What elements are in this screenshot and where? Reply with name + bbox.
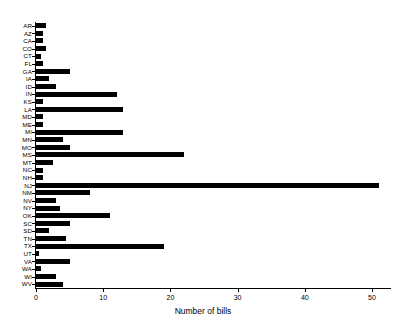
y-axis-tick-label: MT [0,159,32,166]
y-axis-tick-label: NC [0,166,32,173]
bar-row [36,37,372,45]
bar [36,160,53,165]
y-axis-tick-label: UT [0,250,32,257]
y-axis-tick-label: LA [0,106,32,113]
y-axis-tick-label: NV [0,197,32,204]
bar-row [36,68,372,76]
y-axis-tick-label: CO [0,45,32,52]
bar-row [36,106,372,114]
y-axis-category-labels: ARAZCACOCTFLGAIAIDINKSLAMDMEMIMNMOMSMTNC… [0,22,32,288]
bar [36,221,70,226]
bar [36,92,117,97]
bar [36,69,70,74]
bar-row [36,174,372,182]
bar-row [36,212,372,220]
bar-row [36,45,372,53]
y-axis-tick-label: GA [0,68,32,75]
y-axis-tick-label: TX [0,242,32,249]
bar [36,183,379,188]
x-axis-line [36,288,391,289]
bar [36,175,43,180]
y-axis-tick-label: TN [0,235,32,242]
x-axis-tick-label: 40 [293,293,317,302]
bar-row [36,144,372,152]
bar-row [36,90,372,98]
y-axis-tick-label: WI [0,273,32,280]
y-axis-tick-label: MO [0,144,32,151]
bar [36,122,43,127]
bar [36,145,70,150]
bar [36,228,49,233]
bar-row [36,128,372,136]
x-axis-tick-mark [305,288,306,292]
bar [36,266,41,271]
x-axis-tick-label: 50 [360,293,384,302]
bar [36,114,43,119]
x-axis-tick-mark [372,288,373,292]
x-axis-tick-label: 10 [91,293,115,302]
bar-row [36,22,372,30]
y-axis-tick-label: NH [0,174,32,181]
y-axis-tick-label: MI [0,128,32,135]
x-axis-title-label: Number of bills [175,306,232,316]
y-axis-tick-label: CA [0,37,32,44]
bar [36,274,56,279]
bar [36,251,39,256]
bar [36,244,164,249]
bar [36,46,46,51]
bar-row [36,30,372,38]
y-axis-tick-label: FL [0,60,32,67]
bar [36,259,70,264]
bar-row [36,258,372,266]
y-axis-tick-label: KS [0,98,32,105]
bar [36,206,60,211]
y-axis-tick-label: CT [0,52,32,59]
bar-row [36,151,372,159]
bar-row [36,113,372,121]
bar-row [36,273,372,281]
bar-row [36,60,372,68]
bar-row [36,98,372,106]
y-axis-tick-label: MD [0,113,32,120]
bar [36,84,56,89]
y-axis-tick-label: VA [0,258,32,265]
bar-row [36,227,372,235]
x-axis-tick-mark [170,288,171,292]
bar [36,54,41,59]
bar-row [36,75,372,83]
y-axis-tick-label: NJ [0,182,32,189]
bar [36,137,63,142]
x-axis-tick-mark [36,288,37,292]
plot-area [36,22,372,288]
bar [36,31,43,36]
y-axis-tick-label: IN [0,90,32,97]
y-axis-tick-label: ME [0,121,32,128]
bar-chart: ARAZCACOCTFLGAIAIDINKSLAMDMEMIMNMOMSMTNC… [0,0,412,327]
y-axis-tick-label: WA [0,265,32,272]
bar [36,130,123,135]
x-axis-tick-mark [238,288,239,292]
bar [36,152,184,157]
bar [36,282,63,287]
y-axis-tick-label: NM [0,189,32,196]
bar-row [36,159,372,167]
bar-row [36,182,372,190]
bar [36,23,46,28]
y-axis-tick-label: AR [0,22,32,29]
bar [36,61,43,66]
bar [36,213,110,218]
y-axis-tick-label: NY [0,204,32,211]
bar [36,99,43,104]
bar-row [36,189,372,197]
bar [36,168,43,173]
bar-row [36,204,372,212]
y-axis-tick-label: MS [0,151,32,158]
bar-row [36,250,372,258]
bar [36,107,123,112]
bar-row [36,52,372,60]
x-axis-title: Number of bills [0,306,412,316]
bar-row [36,280,372,288]
x-axis-tick-label: 20 [158,293,182,302]
bar-row [36,197,372,205]
x-axis-tick-label: 0 [24,293,48,302]
